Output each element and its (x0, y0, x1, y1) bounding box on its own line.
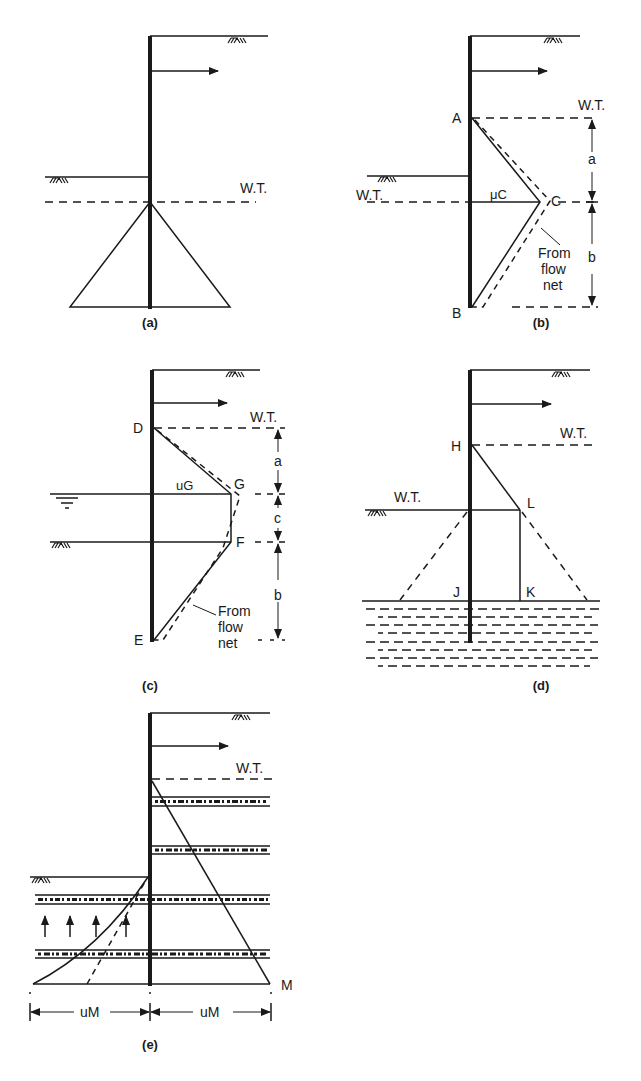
wt-label-left: W.T. (356, 187, 383, 203)
note-flow: flow (541, 261, 567, 277)
dimension-a-label: a (274, 453, 282, 469)
note-from: From (538, 245, 571, 261)
leader-line (193, 605, 216, 615)
note-from: From (218, 603, 251, 619)
wt-label: W.T. (236, 760, 263, 776)
sand-layer-2 (152, 846, 270, 854)
pressure-ug-label: uG (176, 478, 193, 493)
leader-line (541, 228, 560, 245)
figure-canvas: W.T. (a) W.T. W.T. A B C μC a b From flo… (0, 0, 641, 1081)
dimension-right-label: uM (200, 1004, 219, 1020)
point-e-label: E (134, 632, 143, 648)
note-net: net (218, 635, 238, 651)
point-g-label: G (234, 476, 245, 492)
sand-layer-4 (35, 950, 270, 958)
note-net: net (543, 277, 563, 293)
pressure-uc-label: μC (490, 187, 507, 202)
ground-hatch-icon (544, 38, 562, 43)
wt-label-right: W.T. (578, 97, 605, 113)
wt-label: W.T. (250, 409, 277, 425)
ground-hatch-icon (50, 178, 68, 183)
point-c-label: C (551, 193, 561, 209)
note-flow: flow (218, 619, 244, 635)
ground-hatch-icon (32, 878, 50, 883)
ground-hatch-icon (228, 38, 246, 43)
caption-a: (a) (142, 315, 158, 330)
pressure-diagram (472, 118, 540, 307)
point-j-label: J (453, 584, 460, 600)
wt-label-right: W.T. (560, 425, 587, 441)
caption-d: (d) (533, 678, 550, 693)
ground-hatch-icon (226, 372, 244, 377)
pressure-curve-left (33, 877, 148, 984)
sand-layer-3 (35, 895, 270, 904)
wt-label-left: W.T. (394, 489, 421, 505)
panel-d (362, 370, 600, 666)
ground-hatch-icon (378, 177, 396, 182)
clay-layer (366, 609, 600, 666)
dimension-b-label: b (274, 587, 282, 603)
panel-a (45, 36, 268, 309)
sand-layer-1 (152, 797, 270, 806)
point-f-label: F (236, 534, 245, 550)
dimension-b-label: b (588, 249, 596, 265)
ground-hatch-icon (368, 511, 386, 516)
caption-c: (c) (142, 678, 158, 693)
point-k-label: K (526, 584, 536, 600)
point-d-label: D (133, 420, 143, 436)
wt-label: W.T. (240, 180, 267, 196)
ground-hatch-icon (232, 715, 250, 720)
flow-net-pressure (472, 120, 550, 307)
point-l-label: L (527, 495, 535, 511)
point-a-label: A (452, 110, 462, 126)
dimension-a-label: a (588, 151, 596, 167)
point-h-label: H (451, 438, 461, 454)
caption-b: (b) (533, 315, 550, 330)
ground-hatch-icon (552, 372, 570, 377)
ground-hatch-icon (52, 543, 70, 548)
caption-e: (e) (142, 1037, 158, 1052)
point-b-label: B (452, 305, 461, 321)
pressure-line-hl (472, 445, 520, 510)
point-m-label: M (281, 977, 293, 993)
dimension-left-label: uM (80, 1004, 99, 1020)
dimension-c-label: c (274, 510, 281, 526)
